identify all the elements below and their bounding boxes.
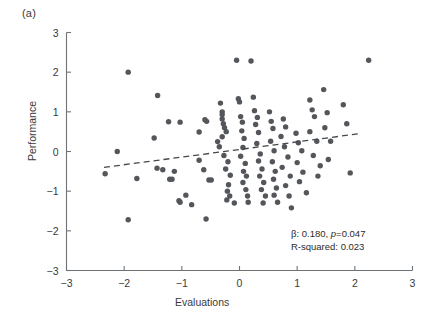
data-point xyxy=(259,166,264,171)
data-point xyxy=(324,110,329,115)
data-point xyxy=(255,115,260,120)
statistics-annotation: β: 0.180, p=0.047 R-squared: 0.023 xyxy=(291,228,365,253)
data-point xyxy=(300,169,305,174)
data-point xyxy=(271,192,276,197)
data-point xyxy=(263,193,268,198)
data-point xyxy=(261,180,266,185)
data-point xyxy=(326,157,331,162)
data-point xyxy=(151,135,156,140)
data-point xyxy=(288,173,293,178)
data-point xyxy=(240,119,245,124)
data-point xyxy=(344,121,349,126)
data-point xyxy=(348,170,353,175)
data-point xyxy=(307,97,312,102)
data-point xyxy=(271,177,276,182)
data-point xyxy=(196,158,201,163)
data-point xyxy=(225,159,230,164)
data-point xyxy=(224,197,229,202)
scatter-plot-figure: (a) Performance Evaluations −3−2−10123−3… xyxy=(0,0,439,321)
data-point xyxy=(366,58,371,63)
data-point xyxy=(270,126,275,131)
data-point xyxy=(196,129,201,134)
data-point xyxy=(243,187,248,192)
y-tick-label: 2 xyxy=(53,66,59,78)
data-point xyxy=(318,163,323,168)
data-point xyxy=(154,165,159,170)
data-point xyxy=(328,138,333,143)
data-point xyxy=(299,148,304,153)
x-tick-label: −1 xyxy=(176,277,188,289)
data-point xyxy=(256,158,261,163)
data-point xyxy=(294,160,299,165)
y-tick-label: 1 xyxy=(53,106,59,118)
data-point xyxy=(232,200,237,205)
data-point xyxy=(283,183,288,188)
y-tick-label: 0 xyxy=(53,146,59,158)
y-tick-label: 3 xyxy=(53,27,59,39)
data-point xyxy=(172,169,177,174)
data-point xyxy=(166,119,171,124)
data-point xyxy=(245,200,250,205)
data-point xyxy=(155,93,160,98)
data-point xyxy=(203,216,208,221)
data-point xyxy=(309,107,314,112)
data-point xyxy=(307,129,312,134)
data-point xyxy=(248,58,253,63)
data-point xyxy=(177,200,182,205)
data-point xyxy=(286,193,291,198)
data-point xyxy=(283,124,288,129)
data-point xyxy=(215,139,220,144)
data-point xyxy=(322,125,327,130)
data-point xyxy=(134,176,139,181)
data-point xyxy=(224,129,229,134)
data-point xyxy=(312,114,317,119)
data-point xyxy=(282,144,287,149)
data-point xyxy=(252,108,257,113)
data-point xyxy=(257,173,262,178)
data-point xyxy=(238,154,243,159)
data-point xyxy=(217,144,222,149)
data-point xyxy=(239,128,244,133)
data-point xyxy=(228,173,233,178)
data-point xyxy=(296,140,301,145)
data-point xyxy=(102,171,107,176)
data-point xyxy=(260,200,265,205)
data-point xyxy=(115,149,120,154)
data-point xyxy=(245,193,250,198)
data-point xyxy=(218,100,223,105)
data-point xyxy=(209,177,214,182)
data-point xyxy=(258,151,263,156)
data-points-group xyxy=(102,58,371,223)
data-point xyxy=(244,173,249,178)
data-point xyxy=(254,141,259,146)
data-point xyxy=(315,173,320,178)
data-point xyxy=(243,161,248,166)
beta-prefix: β: 0.180, xyxy=(291,228,331,239)
data-point xyxy=(237,99,242,104)
x-tick-label: 2 xyxy=(352,277,358,289)
data-point xyxy=(271,148,276,153)
data-point xyxy=(256,130,261,135)
x-tick-label: 1 xyxy=(294,277,300,289)
data-point xyxy=(241,136,246,141)
data-point xyxy=(189,202,194,207)
data-point xyxy=(259,187,264,192)
data-point xyxy=(289,205,294,210)
annotation-line-beta: β: 0.180, p=0.047 xyxy=(291,228,365,241)
y-tick-label: −2 xyxy=(47,225,59,237)
trend-line xyxy=(104,134,359,168)
x-tick-label: 3 xyxy=(410,277,416,289)
data-point xyxy=(177,119,182,124)
data-point xyxy=(270,159,275,164)
data-point xyxy=(169,177,174,182)
data-point xyxy=(234,58,239,63)
data-point xyxy=(241,169,246,174)
data-point xyxy=(204,119,209,124)
data-point xyxy=(293,131,298,136)
data-point xyxy=(126,217,131,222)
x-tick-label: −3 xyxy=(61,277,73,289)
x-tick-label: −2 xyxy=(118,277,130,289)
data-point xyxy=(273,169,278,174)
data-point xyxy=(126,69,131,74)
data-point xyxy=(238,114,243,119)
